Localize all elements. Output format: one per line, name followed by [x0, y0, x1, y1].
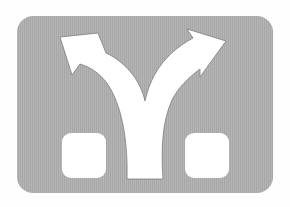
left-square-icon [62, 133, 106, 178]
right-square-icon [185, 133, 229, 178]
sign-canvas: Fork left and right [0, 0, 290, 207]
fork-road-sign [0, 0, 290, 207]
